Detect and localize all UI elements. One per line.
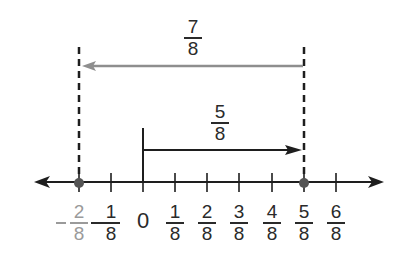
- numerator: 5: [208, 103, 232, 121]
- numerator: 3: [227, 203, 251, 221]
- denominator: 8: [292, 225, 316, 243]
- numerator: 5: [292, 203, 316, 221]
- tick-label-neg-2-8: 2 8: [67, 203, 91, 243]
- label-seven-eighths: 7 8: [181, 18, 205, 58]
- tick-label-neg-1-8: 1 8: [99, 203, 123, 243]
- tick-label-zero: 0: [133, 208, 153, 234]
- numerator: 2: [195, 203, 219, 221]
- tick-label-2-8: 2 8: [195, 203, 219, 243]
- numerator: 1: [99, 203, 123, 221]
- denominator: 8: [181, 40, 205, 58]
- label-five-eighths-arrow: 5 8: [208, 103, 232, 143]
- numerator: 6: [324, 203, 348, 221]
- denominator: 8: [324, 225, 348, 243]
- tick-label-1-8: 1 8: [163, 203, 187, 243]
- numerator: 2: [67, 203, 91, 221]
- denominator: 8: [227, 225, 251, 243]
- tick-label-6-8: 6 8: [324, 203, 348, 243]
- minus-sign-neg-two: [56, 222, 66, 224]
- denominator: 8: [99, 225, 123, 243]
- numerator: 1: [163, 203, 187, 221]
- point-negative-two-eighths: [74, 178, 84, 188]
- tick-label-3-8: 3 8: [227, 203, 251, 243]
- denominator: 8: [67, 225, 91, 243]
- denominator: 8: [163, 225, 187, 243]
- numerator: 7: [181, 18, 205, 36]
- denominator: 8: [195, 225, 219, 243]
- point-five-eighths: [299, 178, 309, 188]
- numerator: 4: [260, 203, 284, 221]
- denominator: 8: [260, 225, 284, 243]
- tick-label-5-8: 5 8: [292, 203, 316, 243]
- tick-label-4-8: 4 8: [260, 203, 284, 243]
- denominator: 8: [208, 125, 232, 143]
